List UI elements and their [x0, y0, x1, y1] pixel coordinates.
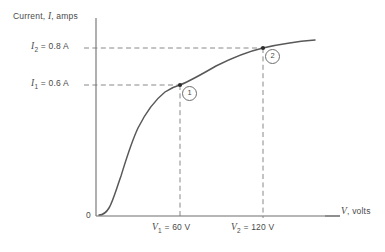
point-callout-1: 1: [182, 86, 197, 101]
chart-figure: Current, I, amps V, volts I2 = 0.8 A I1 …: [0, 0, 385, 252]
point-callout-2: 2: [265, 49, 280, 64]
y-axis-title: Current, I, amps: [13, 11, 78, 21]
y-tick-i1-equals: =: [41, 78, 46, 88]
x-tick-label-v2: V2 = 120 V: [231, 222, 274, 234]
y-tick-label-i2: I2 = 0.8 A: [31, 41, 69, 53]
y-tick-i2-equals: =: [41, 41, 46, 51]
x-axis-title: V, volts: [341, 206, 371, 216]
origin-label: 0: [86, 210, 91, 220]
y-tick-i1-subscript: 1: [34, 83, 38, 90]
x-tick-v1-value: 60 V: [172, 222, 190, 232]
data-point-2: [261, 46, 265, 50]
x-tick-v2-equals: =: [243, 222, 248, 232]
x-axis-title-suffix: , volts: [347, 206, 371, 216]
x-tick-v2-subscript: 2: [237, 227, 241, 234]
chart-plot-area: [0, 0, 385, 252]
y-tick-i1-value: 0.6 A: [49, 78, 69, 88]
y-tick-i2-subscript: 2: [34, 46, 38, 53]
y-tick-label-i1: I1 = 0.6 A: [31, 78, 69, 90]
y-axis-title-prefix: Current,: [13, 11, 48, 21]
y-tick-i2-value: 0.8 A: [49, 41, 69, 51]
x-tick-label-v1: V1 = 60 V: [152, 222, 190, 234]
x-tick-v2-value: 120 V: [251, 222, 274, 232]
data-point-1: [178, 83, 182, 87]
y-axis-title-suffix: , amps: [51, 11, 78, 21]
x-tick-v1-subscript: 1: [158, 227, 162, 234]
iv-curve: [99, 40, 315, 215]
x-tick-v1-equals: =: [164, 222, 169, 232]
